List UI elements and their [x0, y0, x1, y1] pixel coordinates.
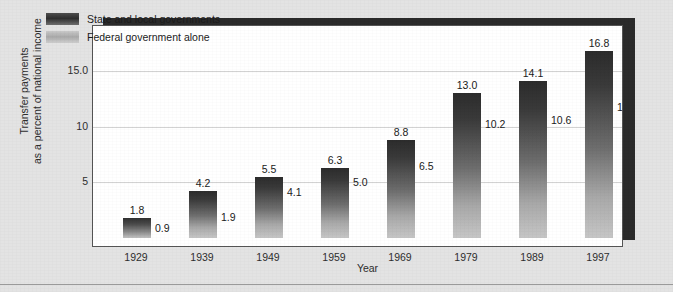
legend-label-federal: Federal government alone	[87, 31, 210, 43]
bar	[519, 81, 547, 238]
legend-swatch-state-local	[46, 13, 79, 25]
plot-frame: 1.80.94.21.95.54.16.35.08.86.513.010.214…	[92, 25, 623, 247]
bottom-rule	[0, 284, 673, 285]
chart-page: Transfer payments as a percent of nation…	[0, 0, 673, 292]
plot-area: 1.80.94.21.95.54.16.35.08.86.513.010.214…	[93, 26, 622, 246]
x-tick-label: 1969	[388, 251, 411, 263]
y-axis-title: Transfer payments as a percent of nation…	[18, 0, 44, 186]
bar-value-label-state-local: 13.0	[457, 79, 477, 91]
bar	[321, 168, 349, 238]
bar	[453, 93, 481, 238]
y-axis-ticks: 51015.0	[50, 25, 88, 247]
x-tick-label: 1939	[190, 251, 213, 263]
bar-value-label-federal: 4.1	[287, 186, 302, 198]
y-tick-label: 10	[54, 120, 88, 132]
bar-value-label-state-local: 4.2	[196, 177, 211, 189]
x-tick-label: 1989	[520, 251, 543, 263]
y-tick-label: 15.0	[54, 64, 88, 76]
bar-value-label-federal: 11.8	[617, 101, 622, 113]
y-axis-title-line-2: as a percent of national income	[31, 0, 44, 186]
bar	[123, 218, 151, 238]
bar-value-label-state-local: 6.3	[328, 154, 343, 166]
bar-value-label-federal: 5.0	[353, 176, 368, 188]
bar	[255, 177, 283, 238]
bar-value-label-federal: 6.5	[419, 160, 434, 172]
bar-value-label-state-local: 14.1	[523, 67, 543, 79]
bar-value-label-state-local: 8.8	[394, 126, 409, 138]
y-axis-title-line-1: Transfer payments	[18, 0, 31, 186]
legend-item-state-local: State and local governments	[46, 11, 220, 27]
bar-value-label-federal: 10.2	[485, 118, 505, 130]
legend-label-state-local: State and local governments	[87, 13, 220, 25]
bar-value-label-federal: 0.9	[155, 222, 170, 234]
bar-value-label-federal: 1.9	[221, 211, 236, 223]
bar	[189, 191, 217, 238]
x-tick-label: 1929	[124, 251, 147, 263]
bar-value-label-state-local: 16.8	[589, 37, 609, 49]
x-tick-label: 1997	[586, 251, 609, 263]
y-tick-label: 5	[54, 175, 88, 187]
bar-value-label-state-local: 5.5	[262, 163, 277, 175]
x-axis-title: Year	[0, 262, 673, 274]
bar-value-label-federal: 10.6	[551, 114, 571, 126]
x-tick-label: 1959	[322, 251, 345, 263]
chart-legend: State and local governments Federal gove…	[46, 11, 220, 47]
legend-swatch-federal	[46, 31, 79, 43]
x-tick-label: 1979	[454, 251, 477, 263]
x-axis-title-text: Year	[357, 262, 378, 274]
x-tick-label: 1949	[256, 251, 279, 263]
legend-item-federal: Federal government alone	[46, 29, 220, 45]
bar-value-label-state-local: 1.8	[130, 204, 145, 216]
bar	[585, 51, 613, 238]
bar	[387, 140, 415, 238]
